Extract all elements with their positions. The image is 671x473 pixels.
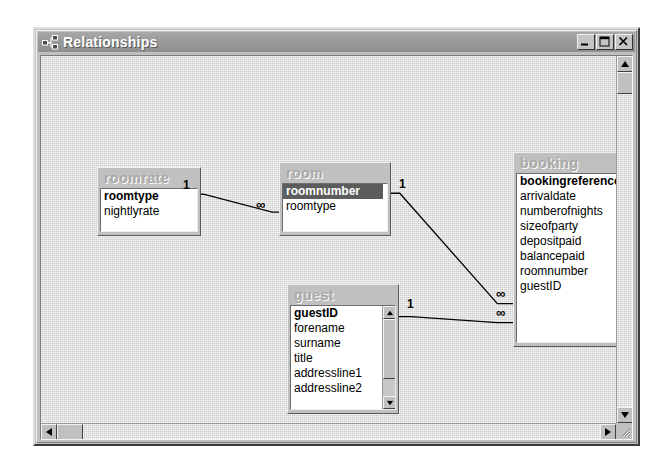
field-row[interactable]: roomnumber bbox=[283, 184, 383, 199]
minimize-button[interactable] bbox=[577, 34, 595, 50]
field-row[interactable]: nightlyrate bbox=[101, 204, 197, 219]
cardinality-many-label: ∞ bbox=[496, 307, 504, 318]
field-row[interactable]: title bbox=[291, 351, 395, 366]
field-list[interactable]: guestIDforenamesurnametitleaddressline1a… bbox=[290, 305, 396, 410]
field-row[interactable]: bookingreference bbox=[517, 174, 616, 189]
relationships-client-area: roomrateroomtypenightlyrateroomroomnumbe… bbox=[40, 55, 633, 440]
cardinality-many-label: ∞ bbox=[496, 288, 504, 299]
field-row[interactable]: roomnumber bbox=[517, 264, 616, 279]
field-list-scrollbar[interactable] bbox=[382, 306, 395, 409]
title-bar[interactable]: Relationships bbox=[38, 32, 635, 52]
field-row[interactable]: depositpaid bbox=[517, 234, 616, 249]
table-box-room[interactable]: roomroomnumberroomtype bbox=[279, 162, 391, 236]
field-row[interactable]: numberofnights bbox=[517, 204, 616, 219]
field-list[interactable]: bookingreferencearrivaldatenumberofnight… bbox=[516, 173, 616, 343]
field-row[interactable]: sizeofparty bbox=[517, 219, 616, 234]
field-list[interactable]: roomnumberroomtype bbox=[282, 183, 388, 232]
field-scroll-down-arrow[interactable] bbox=[383, 396, 396, 409]
resize-grip[interactable] bbox=[618, 425, 631, 438]
field-list[interactable]: roomtypenightlyrate bbox=[100, 188, 198, 232]
field-row[interactable]: arrivaldate bbox=[517, 189, 616, 204]
cardinality-one-label: 1 bbox=[183, 180, 190, 191]
scroll-down-arrow[interactable] bbox=[617, 407, 633, 423]
relationships-canvas[interactable]: roomrateroomtypenightlyrateroomroomnumbe… bbox=[41, 56, 616, 423]
cardinality-one-label: 1 bbox=[407, 299, 414, 310]
scroll-left-arrow[interactable] bbox=[41, 424, 57, 440]
scroll-up-arrow[interactable] bbox=[617, 56, 633, 72]
horizontal-scroll-thumb[interactable] bbox=[57, 424, 83, 440]
field-scroll-up-arrow[interactable] bbox=[383, 306, 396, 319]
relationships-window: Relationships roomrateroomtypenightlyrat… bbox=[33, 27, 640, 446]
maximize-button[interactable] bbox=[596, 34, 614, 50]
vertical-scrollbar[interactable] bbox=[616, 56, 632, 423]
table-box-booking[interactable]: bookingbookingreferencearrivaldatenumber… bbox=[513, 152, 616, 347]
field-row[interactable]: guestID bbox=[291, 306, 395, 321]
close-button[interactable] bbox=[615, 34, 633, 50]
field-row[interactable]: addressline2 bbox=[291, 381, 395, 396]
table-box-guest[interactable]: guestguestIDforenamesurnametitleaddressl… bbox=[287, 284, 399, 414]
vertical-scroll-thumb[interactable] bbox=[617, 72, 633, 94]
cardinality-one-label: 1 bbox=[399, 179, 406, 190]
table-title: booking bbox=[516, 155, 616, 173]
field-row[interactable]: addressline1 bbox=[291, 366, 395, 381]
horizontal-scrollbar[interactable] bbox=[41, 423, 616, 439]
field-scroll-thumb[interactable] bbox=[383, 319, 396, 379]
table-title: guest bbox=[290, 287, 396, 305]
cardinality-many-label: ∞ bbox=[256, 199, 264, 210]
field-row[interactable]: balancepaid bbox=[517, 249, 616, 264]
scroll-right-arrow[interactable] bbox=[600, 424, 616, 440]
relationships-icon bbox=[42, 35, 59, 50]
field-row[interactable]: forename bbox=[291, 321, 395, 336]
field-row[interactable]: guestID bbox=[517, 279, 616, 294]
field-row[interactable]: roomtype bbox=[283, 199, 387, 214]
scrollbar-corner bbox=[616, 423, 632, 439]
table-title: room bbox=[282, 165, 388, 183]
window-title: Relationships bbox=[63, 34, 576, 51]
field-row[interactable]: surname bbox=[291, 336, 395, 351]
